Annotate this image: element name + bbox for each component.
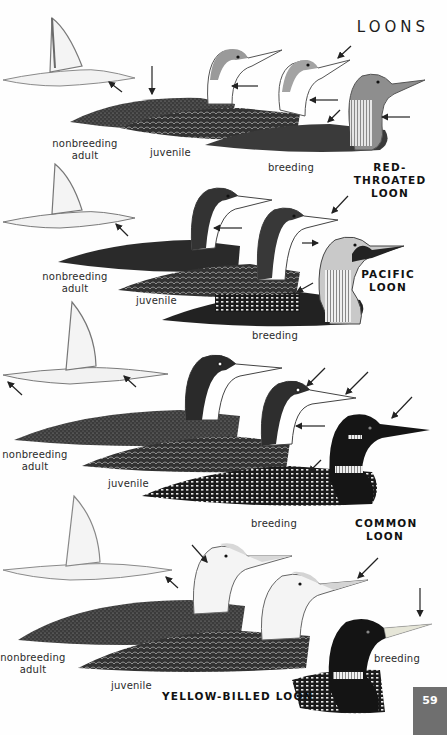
yellow-billed-juvenile-label: juvenile (111, 680, 152, 692)
label-line: adult (40, 283, 110, 295)
loon-illustrations (0, 0, 447, 735)
section-title: LOONS (357, 18, 429, 36)
red-throated-juvenile-icon (120, 49, 300, 140)
common-nonbreeding-label: nonbreeding adult (2, 449, 68, 473)
yellow-billed-nonbreeding-icon (18, 543, 292, 645)
label-line: nonbreeding (0, 652, 66, 664)
label-line: nonbreeding (40, 271, 110, 283)
pacific-breeding-label: breeding (252, 330, 298, 342)
pacific-nonbreeding-label: nonbreeding adult (40, 271, 110, 295)
common-flying-icon (3, 302, 168, 395)
label-line: adult (0, 664, 66, 676)
label-line: adult (2, 461, 68, 473)
red-throated-juvenile-label: juvenile (150, 147, 191, 159)
species-name-red-throated-loon: RED-THROATED LOON (340, 161, 440, 200)
pacific-nonbreeding-icon (58, 188, 272, 272)
species-name-line: PACIFIC (358, 268, 418, 281)
red-throated-juvenile-2-icon (279, 46, 351, 116)
yellow-billed-flying-icon (3, 496, 178, 588)
label-line: nonbreeding (50, 138, 120, 150)
yellow-billed-nonbreeding-label: nonbreeding adult (0, 652, 66, 676)
species-name-line: LOON (355, 530, 415, 543)
species-name-line: LOON (340, 187, 440, 200)
yellow-billed-breeding-label: breeding (374, 653, 420, 665)
species-name-yellow-billed-loon: YELLOW-BILLED LOON (162, 690, 314, 703)
common-breeding-label: breeding (251, 518, 297, 530)
species-name-pacific-loon: PACIFIC LOON (358, 268, 418, 294)
common-nonbreeding-icon (14, 355, 282, 446)
field-guide-page: LOONS nonbreeding adult juvenile breedin… (0, 0, 447, 735)
species-name-common-loon: COMMON LOON (355, 517, 415, 543)
label-line: adult (50, 150, 120, 162)
page-number: 59 (413, 687, 447, 735)
red-throated-breeding-label: breeding (268, 162, 314, 174)
species-name-line: COMMON (355, 517, 415, 530)
pacific-flying-icon (3, 164, 135, 236)
label-line: nonbreeding (2, 449, 68, 461)
species-name-line: RED-THROATED (340, 161, 440, 187)
red-throated-flying-icon (3, 18, 135, 92)
common-juvenile-label: juvenile (108, 478, 149, 490)
species-name-line: LOON (358, 281, 418, 294)
red-throated-nonbreeding-label: nonbreeding adult (50, 138, 120, 162)
pacific-juvenile-label: juvenile (136, 295, 177, 307)
